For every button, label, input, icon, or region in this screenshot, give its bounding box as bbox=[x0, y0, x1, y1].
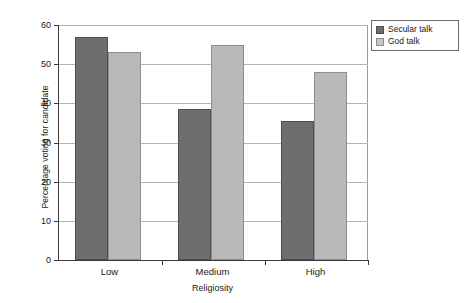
y-tick-label-20: 20 bbox=[21, 178, 51, 187]
x-axis-title: Religiosity bbox=[58, 283, 367, 293]
y-tick-label-50: 50 bbox=[21, 60, 51, 69]
bar-low-god-talk bbox=[108, 52, 141, 260]
bar-high-god-talk bbox=[314, 72, 347, 260]
bar-medium-god-talk bbox=[211, 45, 244, 260]
y-tick-label-60: 60 bbox=[21, 21, 51, 30]
legend: Secular talk God talk bbox=[371, 20, 459, 51]
y-tick-label-30: 30 bbox=[21, 139, 51, 148]
y-tick-60 bbox=[54, 25, 59, 26]
y-tick-40 bbox=[54, 103, 59, 104]
x-tick-1 bbox=[265, 260, 266, 265]
plot-area: 0102030405060 bbox=[58, 25, 368, 261]
legend-item-secular-talk[interactable]: Secular talk bbox=[376, 24, 454, 35]
y-tick-label-0: 0 bbox=[21, 256, 51, 265]
gridline-y-60 bbox=[59, 25, 368, 26]
y-tick-20 bbox=[54, 182, 59, 183]
bar-low-secular-talk bbox=[75, 37, 108, 260]
y-tick-50 bbox=[54, 64, 59, 65]
x-tick-2 bbox=[368, 260, 369, 265]
y-tick-label-40: 40 bbox=[21, 99, 51, 108]
y-tick-30 bbox=[54, 143, 59, 144]
bar-high-secular-talk bbox=[281, 121, 314, 260]
legend-label-god-talk: God talk bbox=[388, 37, 420, 46]
legend-swatch-secular-icon bbox=[376, 26, 384, 34]
legend-swatch-god-icon bbox=[376, 38, 384, 46]
legend-item-god-talk[interactable]: God talk bbox=[376, 36, 454, 47]
x-tick-0 bbox=[162, 260, 163, 265]
bar-chart: Percentage voting for candidate 01020304… bbox=[0, 0, 464, 303]
legend-label-secular-talk: Secular talk bbox=[388, 25, 432, 34]
y-tick-0 bbox=[54, 260, 59, 261]
y-tick-label-10: 10 bbox=[21, 217, 51, 226]
x-category-label-medium: Medium bbox=[168, 266, 258, 277]
x-category-label-low: Low bbox=[65, 266, 155, 277]
bar-medium-secular-talk bbox=[178, 109, 211, 260]
x-category-label-high: High bbox=[271, 266, 361, 277]
y-tick-10 bbox=[54, 221, 59, 222]
